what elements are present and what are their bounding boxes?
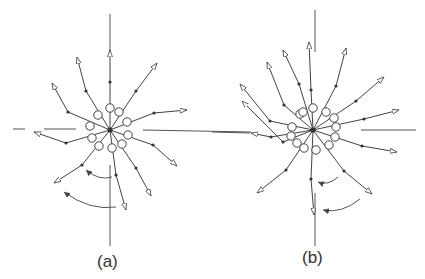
ring-marker	[325, 141, 333, 149]
field-line-node	[84, 89, 87, 92]
ring-marker	[86, 122, 94, 130]
field-line-node	[268, 119, 271, 122]
figure-canvas	[0, 0, 425, 279]
ring-marker	[108, 144, 116, 152]
field-line-node	[362, 117, 365, 120]
field-line-node	[342, 169, 345, 172]
ring-marker	[94, 111, 102, 119]
ring-marker	[124, 131, 132, 139]
field-line-node	[80, 163, 83, 166]
field-line-node	[108, 80, 111, 83]
field-line	[257, 130, 313, 193]
axis-a-horizontal-right	[143, 130, 251, 132]
field-line	[240, 84, 313, 130]
ring-marker	[299, 108, 307, 116]
field-line-node	[134, 166, 137, 169]
field-line	[313, 130, 397, 152]
field-line-node	[64, 141, 67, 144]
field-line	[311, 130, 314, 215]
ring-marker	[309, 104, 317, 112]
ring-marker	[115, 108, 123, 116]
ring-marker	[106, 104, 114, 112]
field-line-node	[334, 84, 337, 87]
rotation-arrow	[64, 192, 116, 208]
field-line-node	[152, 111, 155, 114]
field-line	[77, 57, 110, 130]
field-line-node	[114, 173, 117, 176]
ring-marker	[332, 123, 340, 131]
rotation-arrow	[318, 177, 338, 183]
field-line	[309, 42, 313, 130]
field-line-node	[284, 168, 287, 171]
field-line	[34, 130, 110, 143]
rotation-arrow	[86, 170, 112, 178]
center-point	[310, 127, 315, 132]
ring-marker	[88, 134, 96, 142]
field-line-node	[282, 103, 285, 106]
ring-marker	[118, 140, 126, 148]
ring-marker	[331, 133, 339, 141]
ring-marker	[95, 142, 103, 150]
rotation-arrow	[323, 199, 360, 211]
field-line	[52, 83, 110, 130]
field-line-node	[151, 143, 154, 146]
field-line-node	[360, 144, 363, 147]
field-line-node	[269, 135, 272, 138]
panel-b-field-lines	[240, 42, 399, 215]
ring-marker	[293, 139, 301, 147]
field-line-node	[309, 177, 312, 180]
ring-marker	[322, 108, 330, 116]
field-line	[110, 130, 151, 196]
ring-marker	[312, 146, 320, 154]
ring-marker	[123, 118, 131, 126]
field-line-node	[134, 89, 137, 92]
field-line-node	[309, 88, 312, 91]
field-line-node	[297, 82, 300, 85]
field-line	[267, 62, 313, 130]
ring-marker	[288, 123, 296, 131]
field-line-node	[354, 99, 357, 102]
panel-a-label: (a)	[97, 252, 118, 272]
center-point	[107, 127, 112, 132]
ring-marker	[287, 132, 295, 140]
field-line	[110, 63, 157, 130]
field-line-node	[66, 110, 69, 113]
field-line-node	[281, 140, 284, 143]
panel-a-axes	[13, 14, 251, 246]
ring-marker	[330, 114, 338, 122]
panel-b-label: (b)	[302, 248, 323, 268]
